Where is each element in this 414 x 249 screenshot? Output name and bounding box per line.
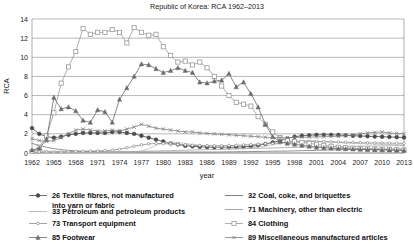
series-line xyxy=(32,64,404,151)
data-point xyxy=(257,143,260,146)
legend-item-73[interactable]: 73 Transport equipment xyxy=(29,219,136,228)
data-point xyxy=(132,26,136,30)
chart-page: Republic of Korea: RCA 1962–201302468101… xyxy=(0,0,414,249)
data-point xyxy=(191,144,194,147)
data-point xyxy=(374,142,377,145)
legend-item-32[interactable]: 32 Coal, coke, and briquettes xyxy=(225,191,350,200)
y-tick-label: 0 xyxy=(24,150,28,157)
data-point xyxy=(403,142,406,145)
data-point xyxy=(133,145,136,148)
x-tick-label: 2010 xyxy=(374,159,390,166)
data-point xyxy=(177,143,180,146)
data-point xyxy=(337,141,340,144)
data-point xyxy=(140,134,144,138)
data-point xyxy=(228,144,231,147)
data-point xyxy=(154,66,158,70)
data-point xyxy=(232,221,236,225)
data-point xyxy=(366,134,370,138)
data-point xyxy=(358,134,362,138)
y-tick-label: 12 xyxy=(20,35,28,42)
data-point xyxy=(293,135,297,139)
series-85 xyxy=(30,62,406,153)
legend-label: 33 Petroleum and petroleum products xyxy=(52,207,185,216)
data-point xyxy=(74,49,78,53)
y-tick-label: 4 xyxy=(24,111,28,118)
data-point xyxy=(117,30,121,34)
legend-item-84[interactable]: 84 Clothing xyxy=(225,219,289,228)
data-point xyxy=(147,136,151,140)
data-point xyxy=(206,144,209,147)
data-point xyxy=(395,135,399,139)
data-point xyxy=(381,142,384,145)
data-point xyxy=(110,130,114,134)
data-point xyxy=(271,142,274,145)
rca-line-chart: Republic of Korea: RCA 1962–201302468101… xyxy=(0,0,414,249)
x-tick-label: 2013 xyxy=(396,159,412,166)
data-point xyxy=(154,32,158,36)
data-point xyxy=(59,81,63,85)
data-point xyxy=(132,132,136,136)
data-point xyxy=(82,150,85,153)
data-point xyxy=(344,141,347,144)
data-point xyxy=(250,143,253,146)
data-point xyxy=(161,45,165,49)
data-point xyxy=(256,115,260,119)
x-tick-label: 1995 xyxy=(265,159,281,166)
data-point xyxy=(227,71,231,75)
data-point xyxy=(176,65,180,69)
x-tick-label: 1977 xyxy=(134,159,150,166)
data-point xyxy=(89,150,92,153)
data-point xyxy=(36,194,40,198)
data-point xyxy=(118,148,121,151)
data-point xyxy=(162,142,165,145)
data-point xyxy=(38,151,41,154)
data-point xyxy=(183,59,187,63)
legend-item-71[interactable]: 71 Machinery, other than electric xyxy=(225,205,362,214)
x-tick-label: 1992 xyxy=(243,159,259,166)
legend-label: 89 Miscellaneous manufactured articles xyxy=(248,233,388,242)
x-tick-label: 1974 xyxy=(112,159,128,166)
data-point xyxy=(60,151,63,154)
data-point xyxy=(139,30,143,34)
data-point xyxy=(234,85,238,89)
data-point xyxy=(81,26,85,30)
data-point xyxy=(67,151,70,154)
series-73 xyxy=(31,140,406,153)
data-point xyxy=(184,144,187,147)
legend-label: 85 Footwear xyxy=(52,233,95,242)
legend-item-33[interactable]: 33 Petroleum and petroleum products xyxy=(29,207,185,216)
data-point xyxy=(241,102,245,106)
x-tick-label: 1971 xyxy=(90,159,106,166)
legend-item-85[interactable]: 85 Footwear xyxy=(29,233,95,242)
data-point xyxy=(30,126,34,130)
data-point xyxy=(169,143,172,146)
data-point xyxy=(322,133,326,137)
legend-label: 32 Coal, coke, and briquettes xyxy=(248,191,350,200)
x-tick-label: 1983 xyxy=(177,159,193,166)
data-point xyxy=(81,131,85,135)
y-axis-label: RCA xyxy=(2,78,11,94)
data-point xyxy=(242,144,245,147)
data-point xyxy=(125,131,129,135)
data-point xyxy=(176,60,180,64)
data-point xyxy=(139,62,143,66)
y-tick-label: 8 xyxy=(24,73,28,80)
data-point xyxy=(45,151,48,154)
data-point xyxy=(352,141,355,144)
y-tick-label: 14 xyxy=(20,16,28,23)
data-point xyxy=(126,146,129,149)
x-axis-label: year xyxy=(200,171,215,180)
data-point xyxy=(380,135,384,139)
data-point xyxy=(388,142,391,145)
data-point xyxy=(388,135,392,139)
data-point xyxy=(395,142,398,145)
data-point xyxy=(66,65,70,69)
data-point xyxy=(37,222,40,225)
data-point xyxy=(103,131,107,135)
legend-item-89[interactable]: 89 Miscellaneous manufactured articles xyxy=(225,233,388,242)
data-point xyxy=(220,144,223,147)
chart-title: Republic of Korea: RCA 1962–2013 xyxy=(150,2,264,11)
data-point xyxy=(373,135,377,139)
data-point xyxy=(96,150,99,153)
data-point xyxy=(227,93,231,97)
